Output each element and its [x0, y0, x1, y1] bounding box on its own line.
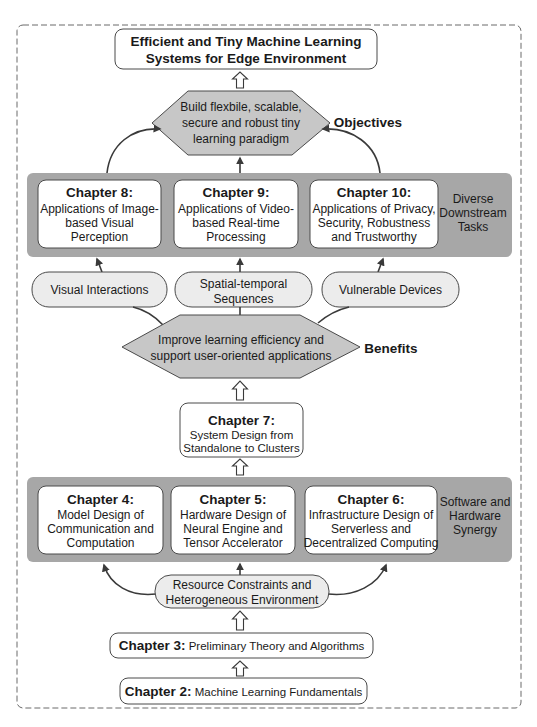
- chapter-10-box: Chapter 10: Applications of Privacy, Sec…: [310, 180, 438, 248]
- objectives-line-3: learning paradigm: [193, 132, 289, 146]
- chapter-6-box: Chapter 6: Infrastructure Design of Serv…: [304, 486, 439, 554]
- objectives-line-1: Build flexbile, scalable,: [180, 100, 301, 114]
- chapter-4-title: Chapter 4:: [67, 492, 134, 507]
- arrow-left-curve-icon: [107, 129, 160, 173]
- chapter-2-title: Chapter 2:: [125, 684, 192, 699]
- benefits-line-1: Improve learning efficiency and: [158, 333, 324, 347]
- chapter-10-title: Chapter 10:: [337, 185, 411, 200]
- chapter-6-line-1: Infrastructure Design of: [309, 508, 434, 522]
- chapter-9-line-2: based Real-time: [192, 216, 280, 230]
- chapter-3-title: Chapter 3:: [119, 638, 186, 653]
- title-line-2: Systems for Edge Environment: [146, 51, 347, 66]
- chapter-7-line-2: Standalone to Clusters: [183, 442, 300, 454]
- constraints-line-2: Heterogeneous Environment: [166, 593, 319, 607]
- downstream-tasks-band: Chapter 8: Applications of Image- based …: [27, 173, 512, 257]
- title-box: Efficient and Tiny Machine Learning Syst…: [115, 29, 377, 69]
- arrow-right-curve-icon: [328, 565, 386, 594]
- chapter-8-box: Chapter 8: Applications of Image- based …: [38, 180, 161, 248]
- chapter-10-line-1: Applications of Privacy,: [312, 202, 435, 216]
- hollow-up-arrow-icon: [233, 661, 248, 676]
- downstream-label-line-3: Tasks: [458, 220, 489, 234]
- chapter-6-title: Chapter 6:: [338, 492, 405, 507]
- synergy-label-line-1: Software and: [440, 495, 511, 509]
- benefits-line-2: support user-oriented applications: [151, 349, 332, 363]
- chapter-6-line-2: Serverless and: [331, 522, 411, 536]
- chapter-5-line-1: Hardware Design of: [180, 508, 287, 522]
- visual-interactions-text: Visual Interactions: [51, 283, 149, 297]
- chapter-3-text: Chapter 3: Preliminary Theory and Algori…: [119, 638, 365, 653]
- downstream-label-line-1: Diverse: [453, 192, 494, 206]
- chapter-8-line-1: Applications of Image-: [40, 202, 159, 216]
- chapter-5-line-3: Tensor Accelerator: [183, 536, 282, 550]
- chapter-10-line-3: and Trustworthy: [331, 230, 416, 244]
- hollow-up-arrow-icon: [233, 459, 248, 475]
- chapter-5-box: Chapter 5: Hardware Design of Neural Eng…: [171, 486, 295, 554]
- visual-interactions-pill: Visual Interactions: [32, 272, 167, 307]
- connector-line: [133, 307, 163, 325]
- chapter-9-line-3: Processing: [206, 230, 265, 244]
- downstream-label-line-2: Downstream: [439, 206, 506, 220]
- chapter-2-box: Chapter 2: Machine Learning Fundamentals: [120, 678, 367, 704]
- hollow-up-arrow-icon: [233, 381, 248, 400]
- chapter-9-line-1: Applications of Video-: [178, 202, 294, 216]
- arrow-up-icon: [97, 259, 102, 272]
- chapter-9-box: Chapter 9: Applications of Video- based …: [174, 180, 298, 248]
- chapter-5-title: Chapter 5:: [200, 492, 267, 507]
- spatial-temporal-pill: Spatial-temporal Sequences: [175, 272, 312, 307]
- hollow-up-arrow-icon: [233, 72, 248, 88]
- vulnerable-devices-pill: Vulnerable Devices: [322, 272, 459, 307]
- title-line-1: Efficient and Tiny Machine Learning: [131, 34, 362, 49]
- chapter-4-box: Chapter 4: Model Design of Communication…: [38, 486, 163, 554]
- chapter-8-line-3: Perception: [71, 230, 128, 244]
- chapter-3-description: Preliminary Theory and Algorithms: [186, 640, 365, 652]
- chapter-7-box: Chapter 7: System Design from Standalone…: [180, 403, 303, 457]
- arrow-right-curve-icon: [323, 129, 380, 173]
- resource-constraints-pill: Resource Constraints and Heterogeneous E…: [155, 575, 329, 608]
- chapter-5-line-2: Neural Engine and: [183, 522, 282, 536]
- chapter-9-title: Chapter 9:: [203, 185, 270, 200]
- chapter-4-line-1: Model Design of: [57, 508, 144, 522]
- chapter-2-description: Machine Learning Fundamentals: [192, 686, 363, 698]
- arrow-left-curve-icon: [104, 565, 156, 594]
- objectives-line-2: secure and robust tiny: [182, 116, 300, 130]
- chapter-10-line-2: Security, Robustness: [318, 216, 431, 230]
- book-structure-diagram: Efficient and Tiny Machine Learning Syst…: [0, 0, 537, 727]
- connector-line: [318, 307, 349, 323]
- vulnerable-devices-text: Vulnerable Devices: [339, 283, 442, 297]
- chapter-3-box: Chapter 3: Preliminary Theory and Algori…: [110, 633, 373, 658]
- chapter-2-text: Chapter 2: Machine Learning Fundamentals: [125, 684, 363, 699]
- chapter-7-title: Chapter 7:: [208, 413, 275, 428]
- chapter-8-title: Chapter 8:: [66, 185, 133, 200]
- arrow-up-icon: [378, 259, 383, 272]
- spatial-temporal-line-2: Sequences: [213, 292, 273, 306]
- chapter-4-line-2: Communication and: [47, 522, 154, 536]
- synergy-label-line-2: Hardware: [449, 509, 501, 523]
- chapter-6-line-3: Decentralized Computing: [304, 536, 439, 550]
- software-hardware-band: Chapter 4: Model Design of Communication…: [27, 477, 512, 562]
- chapter-8-line-2: based Visual: [65, 216, 134, 230]
- synergy-label-line-3: Synergy: [453, 523, 497, 537]
- spatial-temporal-line-1: Spatial-temporal: [200, 277, 287, 291]
- chapter-7-line-1: System Design from: [190, 429, 294, 441]
- chapter-4-line-3: Computation: [66, 536, 134, 550]
- benefits-label: Benefits: [364, 341, 417, 356]
- objectives-label: Objectives: [334, 115, 402, 130]
- constraints-line-1: Resource Constraints and: [173, 578, 312, 592]
- hollow-up-arrow-icon: [233, 611, 248, 630]
- objectives-hexagon: Build flexbile, scalable, secure and rob…: [152, 91, 330, 155]
- benefits-hexagon: Improve learning efficiency and support …: [122, 315, 360, 378]
